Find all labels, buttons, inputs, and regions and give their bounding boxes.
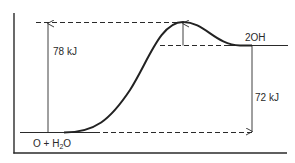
energy-curve (64, 22, 252, 133)
activation-energy-label: 78 kJ (53, 46, 77, 57)
products-label: 2OH (245, 32, 266, 43)
reactants-label: O + H2O (33, 138, 71, 150)
reactants-prefix: O + H (33, 138, 59, 149)
reactants-suffix: O (63, 138, 71, 149)
energy-diagram: 78 kJ 72 kJ 2OH O + H2O (0, 0, 295, 163)
reaction-energy-label: 72 kJ (255, 92, 279, 103)
